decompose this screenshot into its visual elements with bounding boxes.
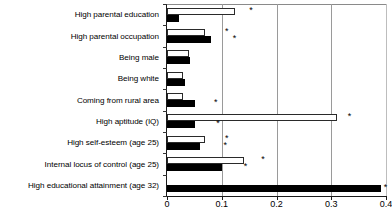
gridline [222,4,223,196]
category-label: Internal locus of control (age 25) [0,160,159,169]
x-axis-tick-label: 0.2 [270,199,283,210]
bar-black [167,143,200,150]
bar-black [167,121,195,128]
y-axis-tick [163,25,167,26]
significance-marker: * [244,163,248,170]
bar-white [167,136,205,143]
x-axis-tick-label: 0.4 [380,199,392,210]
bar-white [167,8,235,15]
significance-marker: * [223,142,227,149]
y-axis-tick [163,89,167,90]
bar-white [167,93,183,100]
category-label: High self-esteem (age 25) [0,138,159,147]
bar-white [167,50,189,57]
category-axis-labels: High parental educationHigh parental occ… [0,0,163,196]
bar-white [167,29,205,36]
significance-marker: * [348,113,352,120]
bar-black [167,185,381,192]
x-axis-tick-label: 0 [164,199,169,210]
significance-marker: * [216,120,220,127]
category-label: Being white [0,74,159,83]
y-axis-tick [163,175,167,176]
significance-marker: * [225,28,229,35]
bar-black [167,164,222,171]
bar-black [167,57,190,64]
significance-marker: * [233,35,237,42]
gridline [331,4,332,196]
gridline [277,4,278,196]
plot-area: *********** [167,4,386,196]
y-axis-tick [163,47,167,48]
category-label: High educational attainment (age 32) [0,181,159,190]
significance-marker: * [214,99,218,106]
category-label: High parental occupation [0,32,159,41]
bar-white [167,157,244,164]
significance-marker: * [261,156,265,163]
bar-black [167,79,185,86]
bar-black [167,100,195,107]
bar-white [167,72,183,79]
category-label: Coming from rural area [0,96,159,105]
category-label: High parental education [0,10,159,19]
bar-black [167,36,211,43]
bar-white [167,114,337,121]
x-axis-tick-label: 0.3 [325,199,338,210]
x-axis-tick-label: 0.1 [215,199,228,210]
y-axis-tick [163,153,167,154]
significance-marker: * [249,7,253,14]
category-label: Being male [0,53,159,62]
y-axis-tick [163,4,167,5]
y-axis-tick [163,111,167,112]
y-axis-tick [163,68,167,69]
x-axis-tick-labels: 00.10.20.30.4 [167,199,386,213]
bar-black [167,15,179,22]
category-label: High aptitude (IQ) [0,117,159,126]
gridline [386,4,387,196]
y-axis-tick [163,132,167,133]
significance-marker: * [384,184,388,191]
